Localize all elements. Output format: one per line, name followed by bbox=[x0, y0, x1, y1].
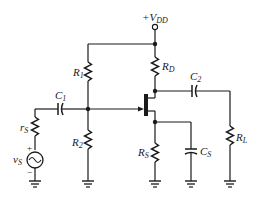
rl-label: RL bbox=[235, 131, 248, 145]
resistor-source-rs bbox=[32, 109, 39, 150]
capacitor-c2 bbox=[192, 85, 230, 97]
c2-label: C2 bbox=[190, 70, 201, 84]
resistor-r1 bbox=[85, 44, 92, 102]
ground-icon bbox=[82, 181, 94, 187]
resistor-rd bbox=[152, 44, 159, 91]
resistor-r2 bbox=[85, 130, 92, 181]
rs-label: RS bbox=[137, 146, 149, 160]
circuit-diagram: +VDD R1 R2 RD C2 bbox=[0, 0, 261, 204]
r1-label: R1 bbox=[72, 66, 84, 80]
r2-label: R2 bbox=[71, 136, 83, 150]
ground-icon bbox=[224, 181, 236, 187]
gate-arrow-icon bbox=[138, 107, 144, 112]
ground-icon bbox=[185, 181, 197, 187]
jfet-q1 bbox=[144, 91, 155, 122]
capacitor-cs bbox=[185, 149, 197, 181]
rd-label: RD bbox=[161, 60, 175, 74]
ground-icon bbox=[149, 181, 161, 187]
resistor-rs bbox=[152, 122, 159, 181]
vdd-terminal bbox=[152, 24, 157, 44]
source-v-label: vS bbox=[13, 153, 22, 167]
resistor-rl bbox=[227, 91, 234, 181]
cs-label: CS bbox=[200, 145, 211, 159]
c1-label: C1 bbox=[55, 89, 66, 103]
source-r-label: rS bbox=[20, 121, 28, 135]
svg-text:+VDD: +VDD bbox=[142, 11, 168, 25]
minus-label: − bbox=[27, 167, 32, 177]
sine-wave-icon bbox=[29, 158, 41, 163]
vdd-label: +VDD bbox=[142, 11, 168, 25]
capacitor-c1 bbox=[35, 103, 88, 115]
plus-label: + bbox=[27, 143, 32, 153]
ground-icon bbox=[29, 181, 41, 187]
